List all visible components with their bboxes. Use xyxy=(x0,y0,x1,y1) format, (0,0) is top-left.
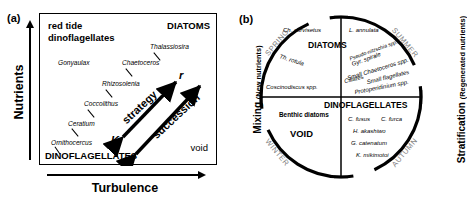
panel-a-tag: (a) xyxy=(7,13,20,24)
nutrients-axis-arrowhead xyxy=(26,20,34,28)
group-label-dinoflagellates: DINOFLAGELLATES xyxy=(324,100,407,110)
species-label-l-annulata: L. annulata xyxy=(349,27,379,33)
nutrients-axis-label: Nutrients xyxy=(12,52,26,132)
seasonal-cycle-circle: SPRING SUMMER AUTUMN WINTER DIATOMS DINO… xyxy=(256,12,426,182)
species-label-h-akashiwo: H. akashiwo xyxy=(353,128,386,134)
species-label-c-furca: C. furca xyxy=(381,116,402,122)
arrow-endpoint-r: r xyxy=(179,69,183,81)
panel-a-plot-box: red tide dinoflagellates DIATOMS DINOFLA… xyxy=(39,13,217,165)
turbulence-axis-line xyxy=(47,174,199,176)
species-label-k-mikimotoi: K. mikimotoi xyxy=(356,152,389,158)
stratification-axis-main: Stratification xyxy=(456,102,467,163)
species-label-benthic-diatoms: Benthic diatoms xyxy=(279,111,329,118)
species-label-c-fusus: C. fusus xyxy=(348,116,370,122)
strategy-succession-arrows xyxy=(40,14,218,166)
stratification-axis-label: Stratification (Regenerated nutrients) xyxy=(456,0,467,183)
panel-a: (a) Nutrients Turbulence red tide dinofl… xyxy=(0,0,229,199)
turbulence-axis-label: Turbulence xyxy=(60,181,190,195)
stratification-axis-sub: (Regenerated nutrients) xyxy=(458,16,467,99)
species-label-g-catenatum: G. catenatum xyxy=(351,140,387,146)
group-label-diatoms: DIATOMS xyxy=(308,40,347,50)
species-label-coscinodiscus-spp: Coscinodiscus spp. xyxy=(266,84,318,90)
group-label-void: VOID xyxy=(290,128,313,139)
species-label-ch-curvisetus: Ch. curvisetus xyxy=(283,27,321,33)
turbulence-axis-arrowhead xyxy=(198,171,206,179)
panel-b: (b) Mixing (New nutrients) Stratificatio… xyxy=(229,0,458,199)
arrow-endpoint-k: K xyxy=(111,134,119,146)
nutrients-axis-line xyxy=(29,26,31,160)
